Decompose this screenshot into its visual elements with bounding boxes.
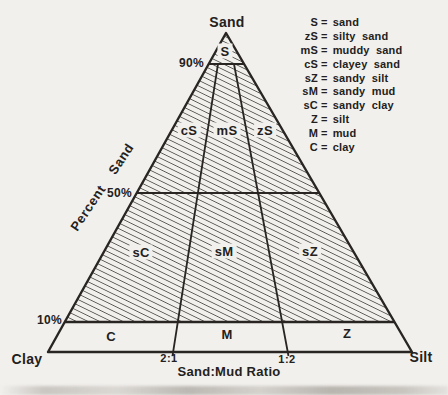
legend-abbr: M bbox=[296, 127, 318, 139]
region-label-ms: mS bbox=[214, 123, 241, 138]
legend-equals: = bbox=[321, 72, 328, 84]
legend-equals: = bbox=[321, 127, 328, 139]
legend-equals: = bbox=[321, 30, 328, 42]
vertex-label-silt: Silt bbox=[400, 350, 442, 364]
legend-abbr: sC bbox=[296, 99, 318, 111]
legend-item: sM = sandy mud bbox=[296, 84, 402, 98]
region-label-m: M bbox=[218, 327, 235, 342]
legend-abbr: mS bbox=[296, 44, 318, 56]
legend-name: sand bbox=[333, 16, 359, 28]
tick-50-percent: 50% bbox=[106, 187, 132, 199]
legend-equals: = bbox=[321, 44, 328, 56]
region-label-cs: cS bbox=[178, 123, 201, 138]
ternary-classification-figure: Sand Clay Silt 90% 50% 10% Percent Sand … bbox=[0, 0, 448, 395]
legend-name: mud bbox=[333, 127, 357, 139]
legend-name: sandy silt bbox=[333, 72, 389, 84]
legend-item: M = mud bbox=[296, 126, 402, 140]
legend: S = sand zS = silty sand mS = muddy sand… bbox=[296, 15, 402, 154]
ratio-tick-2-1: 2:1 bbox=[154, 353, 184, 364]
legend-equals: = bbox=[321, 16, 328, 28]
region-label-s: S bbox=[218, 44, 233, 59]
scan-artifact-band bbox=[0, 386, 448, 395]
legend-abbr: sZ bbox=[296, 72, 318, 84]
legend-abbr: zS bbox=[296, 30, 318, 42]
tick-90-percent: 90% bbox=[174, 57, 204, 69]
legend-equals: = bbox=[321, 85, 328, 97]
legend-name: sandy clay bbox=[333, 99, 394, 111]
legend-abbr: Z bbox=[296, 113, 318, 125]
sand-mud-ratio-axis-label: Sand:Mud Ratio bbox=[149, 365, 309, 378]
tick-10-percent: 10% bbox=[36, 314, 62, 326]
legend-abbr: cS bbox=[296, 58, 318, 70]
vertex-label-clay: Clay bbox=[6, 352, 48, 366]
region-label-sc: sC bbox=[129, 245, 152, 260]
vertex-label-sand: Sand bbox=[202, 15, 252, 29]
legend-item: S = sand bbox=[296, 15, 402, 29]
region-label-c: C bbox=[103, 329, 119, 344]
legend-name: silt bbox=[333, 113, 350, 125]
legend-equals: = bbox=[321, 141, 328, 153]
region-label-sz: sZ bbox=[299, 244, 321, 259]
legend-item: cS = clayey sand bbox=[296, 57, 402, 71]
region-label-zs: zS bbox=[254, 123, 276, 138]
legend-abbr: sM bbox=[296, 85, 318, 97]
legend-name: clayey sand bbox=[333, 58, 401, 70]
region-label-sm: sM bbox=[212, 244, 237, 259]
legend-item: zS = silty sand bbox=[296, 29, 402, 43]
legend-item: sZ = sandy silt bbox=[296, 71, 402, 85]
legend-item: sC = sandy clay bbox=[296, 98, 402, 112]
legend-equals: = bbox=[321, 113, 328, 125]
legend-name: sandy mud bbox=[333, 85, 396, 97]
legend-equals: = bbox=[321, 58, 328, 70]
legend-abbr: C bbox=[296, 141, 318, 153]
legend-item: Z = silt bbox=[296, 112, 402, 126]
legend-name: silty sand bbox=[333, 30, 389, 42]
region-label-z: Z bbox=[340, 326, 354, 341]
legend-name: muddy sand bbox=[333, 44, 403, 56]
legend-abbr: S bbox=[296, 16, 318, 28]
legend-name: clay bbox=[333, 141, 355, 153]
legend-equals: = bbox=[321, 99, 328, 111]
legend-item: mS = muddy sand bbox=[296, 43, 402, 57]
legend-item: C = clay bbox=[296, 140, 402, 154]
